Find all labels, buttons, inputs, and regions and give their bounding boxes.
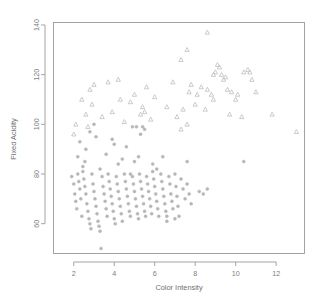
data-point — [206, 187, 209, 190]
data-point — [160, 180, 163, 183]
data-point — [107, 173, 110, 176]
data-point — [79, 197, 82, 200]
data-point — [173, 217, 176, 220]
data-point — [142, 202, 145, 205]
data-point — [143, 128, 146, 131]
data-point — [156, 207, 159, 210]
data-point — [128, 210, 131, 213]
data-point — [108, 180, 111, 183]
data-point — [90, 173, 93, 176]
y-tick-label: 140 — [32, 19, 41, 31]
data-point — [163, 202, 166, 205]
data-point — [84, 148, 87, 151]
data-point — [180, 177, 183, 180]
data-point — [114, 222, 117, 225]
data-point — [74, 200, 77, 203]
y-axis-title: Fixed Acidity — [9, 118, 18, 160]
data-point — [170, 200, 173, 203]
data-point — [93, 197, 96, 200]
data-point — [174, 185, 177, 188]
data-point — [76, 155, 79, 158]
data-point — [99, 168, 102, 171]
data-point — [140, 187, 143, 190]
data-point — [112, 210, 115, 213]
data-point — [151, 163, 154, 166]
data-point — [105, 207, 108, 210]
data-point — [100, 247, 103, 250]
data-point — [143, 210, 146, 213]
data-point — [137, 217, 140, 220]
data-point — [178, 215, 181, 218]
plot-canvas: 24681012 6080100120140 Color Intensity F… — [0, 0, 322, 308]
data-point — [129, 215, 132, 218]
data-point — [186, 182, 189, 185]
data-point — [110, 195, 113, 198]
data-point — [138, 173, 141, 176]
data-point — [81, 165, 84, 168]
data-point — [117, 163, 120, 166]
data-point — [139, 133, 142, 136]
x-tick-label: 4 — [112, 269, 116, 278]
data-point — [123, 173, 126, 176]
data-point — [182, 187, 185, 190]
data-point — [109, 187, 112, 190]
data-point — [113, 143, 116, 146]
data-point — [77, 180, 80, 183]
data-point — [115, 175, 118, 178]
data-point — [155, 200, 158, 203]
data-point — [124, 180, 127, 183]
data-point — [154, 192, 157, 195]
data-point — [121, 220, 124, 223]
data-point — [173, 173, 176, 176]
data-point — [145, 175, 148, 178]
data-point — [134, 197, 137, 200]
data-point — [188, 192, 191, 195]
data-point — [148, 197, 151, 200]
data-point — [106, 215, 109, 218]
data-point — [146, 182, 149, 185]
x-axis-title: Color Intensity — [155, 283, 203, 292]
data-point — [102, 185, 105, 188]
y-tick-label: 120 — [32, 69, 41, 81]
data-point — [76, 173, 79, 176]
data-point — [86, 210, 89, 213]
data-point — [95, 135, 98, 138]
data-point — [176, 205, 179, 208]
data-point — [149, 205, 152, 208]
data-point — [83, 160, 86, 163]
data-point — [190, 202, 193, 205]
data-point — [103, 192, 106, 195]
data-point — [78, 187, 81, 190]
data-point — [161, 187, 164, 190]
data-point — [202, 192, 205, 195]
data-point — [72, 182, 75, 185]
data-point — [70, 175, 73, 178]
scatter-plot-figure: 24681012 6080100120140 Color Intensity F… — [0, 0, 322, 308]
x-tick-label: 6 — [153, 269, 157, 278]
data-point — [75, 207, 78, 210]
x-tick-label: 12 — [272, 269, 280, 278]
data-point — [98, 225, 101, 228]
x-tick-label: 10 — [232, 269, 240, 278]
data-point — [91, 182, 94, 185]
data-point — [73, 192, 76, 195]
data-point — [84, 192, 87, 195]
data-point — [141, 195, 144, 198]
data-point — [155, 168, 158, 171]
data-point — [121, 158, 124, 161]
data-point — [116, 182, 119, 185]
data-point — [162, 195, 165, 198]
data-point — [150, 212, 153, 215]
data-point — [198, 190, 201, 193]
x-tick-label: 8 — [193, 269, 197, 278]
data-point — [165, 220, 168, 223]
data-point — [87, 217, 90, 220]
y-tick-label: 60 — [32, 220, 41, 228]
data-point — [111, 138, 114, 141]
data-point — [127, 202, 130, 205]
data-point — [126, 195, 129, 198]
data-point — [78, 140, 81, 143]
data-point — [152, 177, 155, 180]
data-point — [159, 173, 162, 176]
data-point — [169, 192, 172, 195]
